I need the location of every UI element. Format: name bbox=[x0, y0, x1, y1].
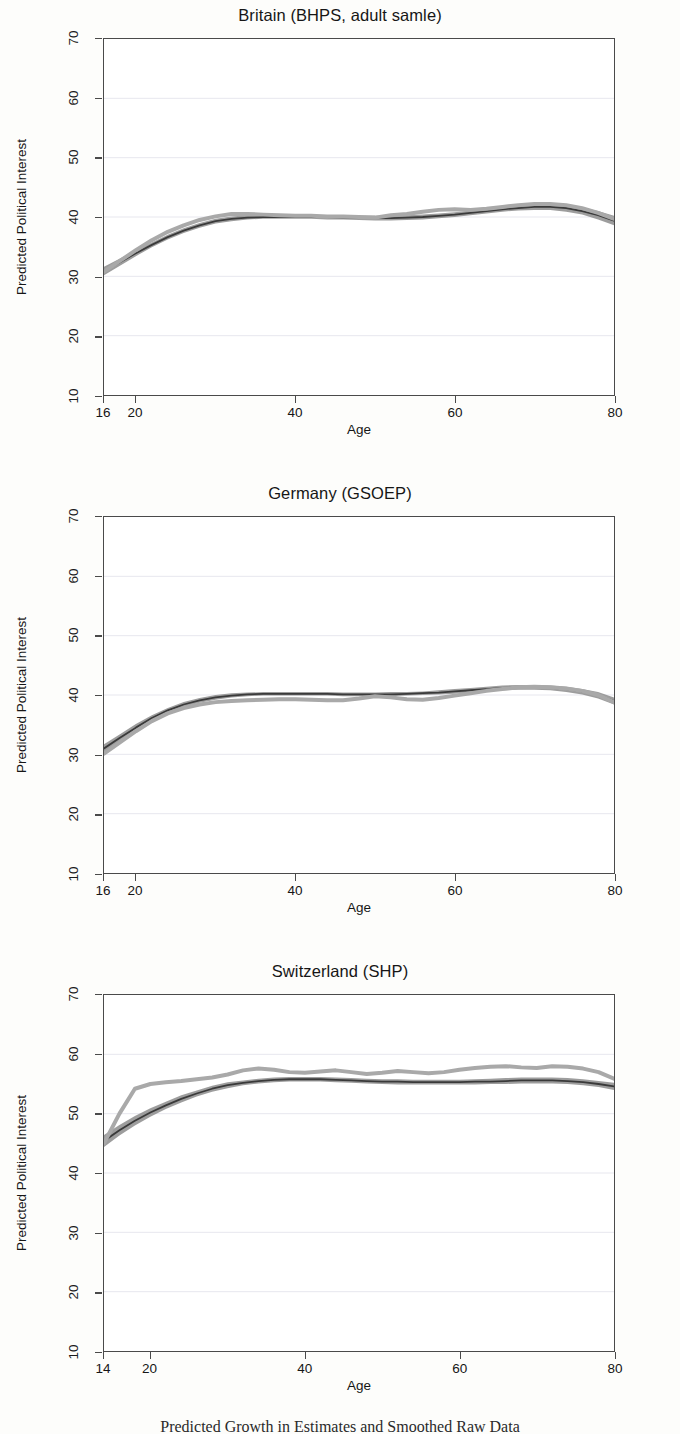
x-tick-mark bbox=[135, 396, 136, 403]
y-tick-label: 70 bbox=[65, 501, 83, 531]
x-tick-mark bbox=[615, 1352, 616, 1359]
x-tick-label: 60 bbox=[435, 405, 475, 420]
y-tick-mark bbox=[95, 157, 102, 158]
plot-area-germany: Predicted Political Interest 10203040506… bbox=[0, 508, 680, 893]
x-tick-mark bbox=[103, 396, 104, 403]
x-tick-label: 60 bbox=[440, 1361, 480, 1376]
data-line bbox=[104, 1079, 614, 1141]
plot-area-switzerland: Predicted Political Interest 10203040506… bbox=[0, 986, 680, 1371]
y-tick-mark bbox=[95, 1113, 102, 1114]
panel-switzerland: Switzerland (SHP) Predicted Political In… bbox=[0, 956, 680, 1434]
x-tick-mark bbox=[150, 1352, 151, 1359]
y-tick-label: 60 bbox=[65, 1039, 83, 1069]
x-tick-mark bbox=[135, 874, 136, 881]
x-tick-mark bbox=[455, 396, 456, 403]
y-tick-label: 30 bbox=[65, 740, 83, 770]
panel-germany: Germany (GSOEP) Predicted Political Inte… bbox=[0, 478, 680, 956]
y-tick-mark bbox=[95, 516, 102, 517]
x-tick-mark bbox=[615, 874, 616, 881]
x-tick-mark bbox=[295, 396, 296, 403]
panel-title-switzerland: Switzerland (SHP) bbox=[0, 956, 680, 986]
y-tick-mark bbox=[95, 38, 102, 39]
y-ticks-switzerland: 10203040506070 bbox=[55, 994, 99, 1352]
y-tick-label: 50 bbox=[65, 1098, 83, 1128]
x-tick-label: 40 bbox=[275, 405, 315, 420]
plot-frame-switzerland bbox=[103, 994, 615, 1352]
x-axis-label-switzerland: Age bbox=[103, 1378, 615, 1393]
plot-area-britain: Predicted Political Interest 10203040506… bbox=[0, 30, 680, 415]
data-line bbox=[104, 687, 614, 748]
y-tick-mark bbox=[95, 1173, 102, 1174]
confidence-band bbox=[104, 1077, 614, 1147]
y-tick-label: 50 bbox=[65, 620, 83, 650]
y-tick-label: 10 bbox=[65, 1337, 83, 1367]
x-tick-label: 40 bbox=[285, 1361, 325, 1376]
y-tick-label: 50 bbox=[65, 142, 83, 172]
x-tick-label: 20 bbox=[115, 883, 155, 898]
series-svg-britain bbox=[104, 39, 614, 395]
y-tick-mark bbox=[95, 217, 102, 218]
y-tick-label: 10 bbox=[65, 381, 83, 411]
y-tick-mark bbox=[95, 1054, 102, 1055]
y-tick-mark bbox=[95, 1292, 102, 1293]
y-tick-mark bbox=[95, 874, 102, 875]
y-tick-label: 20 bbox=[65, 321, 83, 351]
y-tick-mark bbox=[95, 755, 102, 756]
y-tick-mark bbox=[95, 277, 102, 278]
y-tick-label: 30 bbox=[65, 262, 83, 292]
y-tick-mark bbox=[95, 98, 102, 99]
panel-britain: Britain (BHPS, adult samle) Predicted Po… bbox=[0, 0, 680, 478]
x-tick-label: 80 bbox=[595, 883, 635, 898]
x-tick-mark bbox=[103, 1352, 104, 1359]
data-line bbox=[104, 687, 614, 754]
confidence-band bbox=[104, 204, 614, 275]
y-tick-label: 20 bbox=[65, 1277, 83, 1307]
x-tick-mark bbox=[295, 874, 296, 881]
y-tick-mark bbox=[95, 994, 102, 995]
plot-frame-britain bbox=[103, 38, 615, 396]
x-tick-label: 60 bbox=[435, 883, 475, 898]
y-tick-label: 20 bbox=[65, 799, 83, 829]
x-tick-mark bbox=[460, 1352, 461, 1359]
y-tick-label: 60 bbox=[65, 561, 83, 591]
x-tick-mark bbox=[455, 874, 456, 881]
x-axis-label-britain: Age bbox=[103, 422, 615, 437]
x-tick-label: 20 bbox=[130, 1361, 170, 1376]
y-tick-mark bbox=[95, 1352, 102, 1353]
x-tick-mark bbox=[305, 1352, 306, 1359]
x-tick-label: 80 bbox=[595, 405, 635, 420]
figure-caption: Predicted Growth in Estimates and Smooth… bbox=[0, 1418, 680, 1434]
x-tick-mark bbox=[615, 396, 616, 403]
series-svg-switzerland bbox=[104, 995, 614, 1351]
y-tick-label: 40 bbox=[65, 1158, 83, 1188]
y-tick-mark bbox=[95, 635, 102, 636]
data-line bbox=[104, 204, 614, 272]
y-tick-label: 30 bbox=[65, 1218, 83, 1248]
plot-frame-germany bbox=[103, 516, 615, 874]
y-ticks-germany: 10203040506070 bbox=[55, 516, 99, 874]
x-tick-label: 20 bbox=[115, 405, 155, 420]
y-tick-mark bbox=[95, 576, 102, 577]
y-tick-mark bbox=[95, 336, 102, 337]
panel-title-germany: Germany (GSOEP) bbox=[0, 478, 680, 508]
panel-title-britain: Britain (BHPS, adult samle) bbox=[0, 0, 680, 30]
y-tick-mark bbox=[95, 814, 102, 815]
y-tick-mark bbox=[95, 695, 102, 696]
y-tick-label: 70 bbox=[65, 979, 83, 1009]
y-tick-label: 60 bbox=[65, 83, 83, 113]
y-axis-label-switzerland: Predicted Political Interest bbox=[14, 994, 30, 1352]
x-tick-label: 40 bbox=[275, 883, 315, 898]
y-tick-label: 40 bbox=[65, 202, 83, 232]
y-tick-label: 10 bbox=[65, 859, 83, 889]
y-ticks-britain: 10203040506070 bbox=[55, 38, 99, 396]
x-tick-label: 80 bbox=[595, 1361, 635, 1376]
y-tick-label: 40 bbox=[65, 680, 83, 710]
y-axis-label-britain: Predicted Political Interest bbox=[14, 38, 30, 396]
y-tick-mark bbox=[95, 1233, 102, 1234]
y-tick-mark bbox=[95, 396, 102, 397]
x-tick-label: 14 bbox=[83, 1361, 123, 1376]
x-axis-label-germany: Age bbox=[103, 900, 615, 915]
y-axis-label-germany: Predicted Political Interest bbox=[14, 516, 30, 874]
series-svg-germany bbox=[104, 517, 614, 873]
y-tick-label: 70 bbox=[65, 23, 83, 53]
